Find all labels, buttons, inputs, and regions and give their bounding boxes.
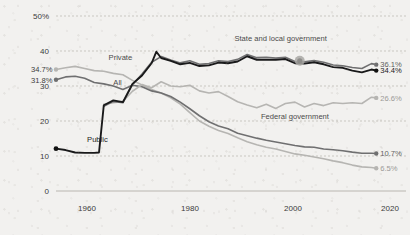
series-end-dot-state-and-local-government — [374, 62, 378, 66]
end-value-federal-government: 26.6% — [380, 94, 402, 103]
y-tick-50: 50% — [33, 12, 49, 21]
y-tick-0: 0 — [45, 187, 50, 196]
end-value-private: 6.5% — [380, 164, 398, 173]
start-value-all: 31.8% — [31, 76, 53, 85]
x-tick-2020: 2020 — [381, 204, 399, 213]
chart-svg: 50% 40 30 20 10 0 1960 1980 2000 2020 Pr… — [0, 0, 410, 235]
union-membership-line-chart: 50% 40 30 20 10 0 1960 1980 2000 2020 Pr… — [0, 0, 410, 235]
start-value-private: 34.7% — [31, 65, 53, 74]
y-axis-ticks: 50% 40 30 20 10 0 — [33, 12, 50, 196]
x-tick-1980: 1980 — [181, 204, 199, 213]
annotation-public: Public — [87, 135, 108, 144]
x-tick-2000: 2000 — [284, 204, 302, 213]
series-start-dot-all — [54, 78, 58, 82]
y-tick-40: 40 — [40, 47, 49, 56]
y-tick-20: 20 — [40, 117, 49, 126]
marker-layer — [295, 56, 305, 66]
y-tick-10: 10 — [40, 152, 49, 161]
series-line-state-and-local-government — [104, 55, 376, 107]
series-end-dot-private — [374, 166, 378, 170]
series-layer — [54, 52, 379, 171]
end-value-public: 34.4% — [380, 66, 402, 75]
series-end-dot-federal-government — [374, 96, 378, 100]
annotation-private: Private — [109, 53, 133, 62]
end-value-all: 10.7% — [380, 149, 402, 158]
x-tick-1960: 1960 — [78, 204, 96, 213]
annotation-all: All — [113, 78, 122, 87]
annotation-federal: Federal government — [261, 112, 330, 121]
series-end-dot-all — [374, 151, 378, 155]
highlight-marker-core[interactable] — [297, 58, 302, 63]
x-axis-ticks: 1960 1980 2000 2020 — [78, 204, 399, 213]
series-end-dot-public — [374, 68, 378, 72]
annotation-state-local: State and local government — [234, 34, 327, 43]
series-start-dot-private — [54, 67, 58, 71]
series-start-dot-public — [54, 146, 59, 151]
